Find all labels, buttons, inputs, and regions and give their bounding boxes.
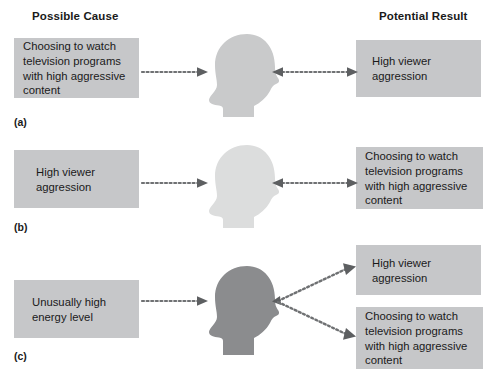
panel-c-result-box-bottom: Choosing to watch television programs wi… xyxy=(356,307,483,369)
box-text-line: High viewer xyxy=(372,256,472,271)
box-text-line: High viewer xyxy=(372,54,472,69)
box-text-line: Unusually high xyxy=(32,295,130,310)
arrow-cause-to-head-panel-a xyxy=(142,64,212,80)
arrow-cause-to-head-panel-b xyxy=(142,175,212,191)
box-text-line: Choosing to watch xyxy=(365,309,474,324)
head-silhouette-panel-c xyxy=(208,265,294,357)
panel-c-result-box-top: High viewer aggression xyxy=(356,245,481,295)
box-text-line: with high aggressive xyxy=(365,179,474,194)
panel-b-cause-box: High viewer aggression xyxy=(14,150,139,208)
panel-a-cause-box: Choosing to watch television programs wi… xyxy=(14,38,139,98)
box-text-line: High viewer xyxy=(36,165,130,180)
box-text-line: aggression xyxy=(372,271,472,286)
arrow-cause-to-head-panel-c xyxy=(142,293,212,309)
box-text-line: aggression xyxy=(36,180,130,195)
column-header-possible-cause: Possible Cause xyxy=(32,10,118,22)
panel-label-c: (c) xyxy=(14,350,27,362)
panel-c-cause-box: Unusually high energy level xyxy=(14,280,139,338)
box-text-line: Choosing to watch xyxy=(23,39,130,54)
box-text-line: with high aggressive xyxy=(365,339,474,354)
panel-a-result-box: High viewer aggression xyxy=(356,40,481,97)
box-text-line: content xyxy=(23,83,130,98)
box-text-line: with high aggressive xyxy=(23,69,130,84)
box-text-line: content xyxy=(365,353,474,368)
panel-b-result-box: Choosing to watch television programs wi… xyxy=(356,147,483,209)
box-text-line: Choosing to watch xyxy=(365,149,474,164)
box-text-line: content xyxy=(365,193,474,208)
box-text-line: television programs xyxy=(23,54,130,69)
panel-label-a: (a) xyxy=(14,116,27,128)
head-silhouette-panel-b xyxy=(208,144,294,229)
diagram-canvas: Possible Cause Potential Result (a) Choo… xyxy=(0,0,500,390)
column-header-potential-result: Potential Result xyxy=(379,10,468,22)
box-text-line: television programs xyxy=(365,324,474,339)
box-text-line: television programs xyxy=(365,164,474,179)
box-text-line: aggression xyxy=(372,69,472,84)
box-text-line: energy level xyxy=(32,310,130,325)
panel-label-b: (b) xyxy=(14,221,27,233)
head-silhouette-panel-a xyxy=(208,33,294,118)
